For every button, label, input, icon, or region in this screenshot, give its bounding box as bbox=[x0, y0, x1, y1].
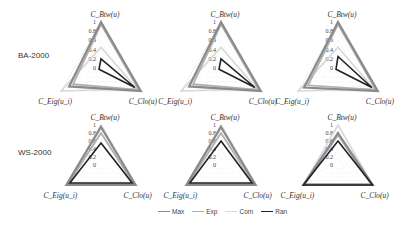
series-exp bbox=[305, 135, 371, 184]
tick-label: 0 bbox=[93, 162, 96, 168]
axis-label-eig: C_Eig(u_i) bbox=[163, 191, 197, 200]
radar-chart: 00.20.40.60.81C_Btw(u)C_Clo(u)C_Eig(u_i) bbox=[275, 10, 394, 106]
axis-label-clo: C_Clo(u) bbox=[366, 97, 395, 106]
legend-item-max: Max bbox=[158, 208, 184, 215]
tick-label: 1 bbox=[330, 19, 333, 25]
tick-label: 0 bbox=[93, 65, 96, 71]
legend: Max Exp Com Ran bbox=[158, 208, 287, 215]
axis-label-clo: C_Clo(u) bbox=[249, 97, 278, 106]
tick-label: 0 bbox=[330, 162, 333, 168]
series-ran bbox=[303, 141, 372, 185]
legend-item-exp: Exp bbox=[192, 208, 217, 215]
axis-label-eig: C_Eig(u_i) bbox=[275, 97, 309, 106]
axis-label-btw: C_Btw(u) bbox=[210, 10, 240, 19]
axis-label-clo: C_Clo(u) bbox=[360, 191, 389, 200]
axis-label-btw: C_Btw(u) bbox=[327, 113, 357, 122]
series-exp bbox=[68, 133, 134, 184]
tick-label: 1 bbox=[330, 122, 333, 128]
axis-label-btw: C_Btw(u) bbox=[210, 113, 240, 122]
legend-item-com: Com bbox=[225, 208, 253, 215]
tick-label: 1 bbox=[213, 19, 216, 25]
radar-chart: 00.20.40.60.81C_Btw(u)C_Clo(u)C_Eig(u_i) bbox=[163, 113, 272, 200]
tick-label: 0 bbox=[330, 65, 333, 71]
axis-label-eig: C_Eig(u_i) bbox=[158, 97, 192, 106]
tick-label: 0 bbox=[213, 162, 216, 168]
axis-label-btw: C_Btw(u) bbox=[327, 10, 357, 19]
radar-chart: 00.20.40.60.81C_Btw(u)C_Clo(u)C_Eig(u_i) bbox=[38, 10, 157, 106]
radar-chart: 00.20.40.60.81C_Btw(u)C_Clo(u)C_Eig(u_i) bbox=[43, 113, 152, 200]
axis-label-eig: C_Eig(u_i) bbox=[43, 191, 77, 200]
radar-chart: 00.20.40.60.81C_Btw(u)C_Clo(u)C_Eig(u_i) bbox=[280, 113, 389, 200]
axis-label-clo: C_Clo(u) bbox=[123, 191, 152, 200]
axis-label-clo: C_Clo(u) bbox=[129, 97, 158, 106]
axis-label-btw: C_Btw(u) bbox=[90, 10, 120, 19]
series-max bbox=[66, 127, 135, 185]
radar-chart: 00.20.40.60.81C_Btw(u)C_Clo(u)C_Eig(u_i) bbox=[158, 10, 277, 106]
tick-label: 0 bbox=[213, 65, 216, 71]
axis-label-clo: C_Clo(u) bbox=[243, 191, 272, 200]
series-max bbox=[186, 127, 255, 185]
axis-label-eig: C_Eig(u_i) bbox=[280, 191, 314, 200]
tick-label: 1 bbox=[93, 122, 96, 128]
radar-charts: 00.20.40.60.81C_Btw(u)C_Clo(u)C_Eig(u_i)… bbox=[0, 0, 406, 227]
tick-label: 1 bbox=[93, 19, 96, 25]
tick-label: 1 bbox=[213, 122, 216, 128]
axis-label-eig: C_Eig(u_i) bbox=[38, 97, 72, 106]
legend-item-ran: Ran bbox=[261, 208, 287, 215]
axis-label-btw: C_Btw(u) bbox=[90, 113, 120, 122]
